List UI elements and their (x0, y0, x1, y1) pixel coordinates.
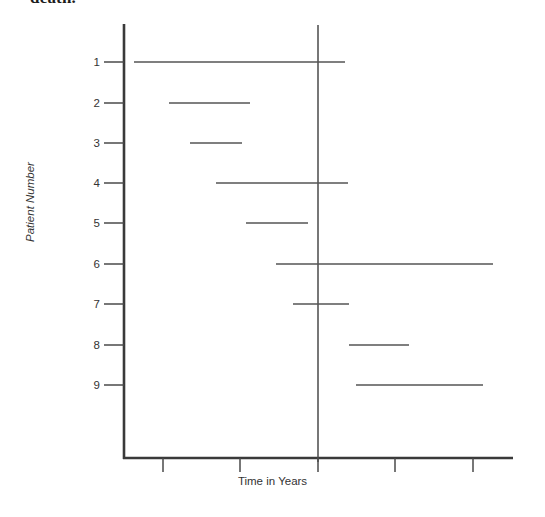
y-tick-label-9: 9 (78, 379, 100, 391)
y-axis-ticks (104, 62, 124, 385)
y-tick-label-3: 3 (78, 137, 100, 149)
y-tick-label-1: 1 (78, 56, 100, 68)
y-tick-label-2: 2 (78, 97, 100, 109)
patient-segments (134, 62, 493, 385)
y-tick-label-4: 4 (78, 177, 100, 189)
y-tick-label-6: 6 (78, 258, 100, 270)
y-tick-label-7: 7 (78, 298, 100, 310)
x-axis-title: Time in Years (0, 475, 545, 487)
survival-chart-figure: death. (0, 0, 545, 517)
y-axis-title: Patient Number (24, 147, 36, 257)
y-tick-label-8: 8 (78, 339, 100, 351)
y-tick-label-5: 5 (78, 217, 100, 229)
